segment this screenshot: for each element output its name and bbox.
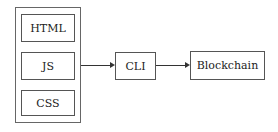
html-node: HTML	[21, 14, 75, 42]
cli-node: CLI	[115, 52, 156, 80]
js-node: JS	[21, 52, 75, 80]
js-label: JS	[42, 60, 54, 73]
css-label: CSS	[36, 97, 59, 110]
arrow-cli-to-blockchain	[156, 65, 186, 66]
css-node: CSS	[21, 90, 75, 116]
blockchain-label: Blockchain	[197, 59, 258, 72]
arrow-group-to-cli	[81, 65, 111, 66]
cli-label: CLI	[125, 60, 145, 73]
html-label: HTML	[30, 22, 66, 35]
blockchain-node: Blockchain	[190, 51, 265, 80]
